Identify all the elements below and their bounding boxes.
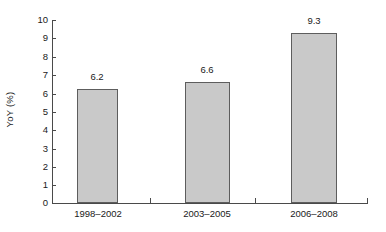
y-tick-mark-1: [52, 185, 56, 186]
y-tick-label-4: 4: [26, 125, 48, 135]
y-tick-mark-7: [52, 75, 56, 76]
y-tick-mark-4: [52, 130, 56, 131]
bar-value-2003-2005: 6.6: [177, 64, 237, 75]
y-tick-label-9: 9: [26, 33, 48, 43]
y-tick-label-0: 0: [26, 198, 48, 208]
y-tick-label-8: 8: [26, 52, 48, 62]
y-tick-mark-9: [52, 38, 56, 39]
x-category-label-2006-2008: 2006–2008: [264, 208, 364, 220]
x-tick-mark-3: [367, 198, 368, 203]
x-tick-mark-0: [52, 198, 53, 203]
x-category-label-2003-2005: 2003–2005: [157, 208, 257, 220]
y-tick-mark-2: [52, 167, 56, 168]
y-tick-mark-5: [52, 112, 56, 113]
bar-value-1998-2002: 6.2: [67, 71, 127, 82]
bar-value-2006-2008: 9.3: [284, 15, 344, 26]
y-tick-label-6: 6: [26, 89, 48, 99]
y-tick-label-10: 10: [26, 15, 48, 25]
y-tick-label-7: 7: [26, 70, 48, 80]
bar-chart: YoY (%) 10 9 8 7 6 5 4 3 2 1 0 6.2 6.6 9…: [0, 0, 386, 232]
y-tick-label-1: 1: [26, 180, 48, 190]
y-tick-mark-10: [52, 20, 56, 21]
y-tick-label-2: 2: [26, 162, 48, 172]
y-tick-mark-6: [52, 94, 56, 95]
bar-1998-2002: [77, 89, 118, 203]
y-tick-mark-8: [52, 57, 56, 58]
y-tick-label-3: 3: [26, 144, 48, 154]
bar-2003-2005: [185, 82, 230, 203]
x-tick-mark-1: [150, 198, 151, 203]
y-tick-mark-3: [52, 149, 56, 150]
x-axis-line: [52, 203, 368, 204]
x-category-label-1998-2002: 1998–2002: [48, 208, 148, 220]
y-tick-label-5: 5: [26, 107, 48, 117]
y-axis-label: YoY (%): [4, 80, 15, 140]
y-tick-mark-0: [52, 203, 56, 204]
x-tick-mark-2: [255, 198, 256, 203]
bar-2006-2008: [291, 33, 337, 203]
